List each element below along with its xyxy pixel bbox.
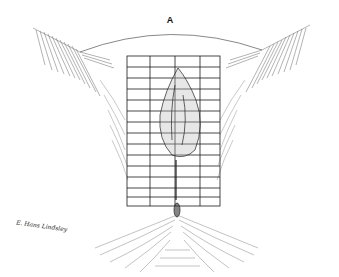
left-thigh-hatching — [33, 28, 114, 96]
panel-label: A — [167, 15, 174, 25]
illustration: A E. Hans Lindsley — [0, 0, 339, 277]
lower-hatching — [95, 215, 258, 272]
central-anatomy — [160, 68, 201, 217]
line-drawing — [0, 0, 339, 277]
right-thigh-hatching — [226, 25, 310, 92]
